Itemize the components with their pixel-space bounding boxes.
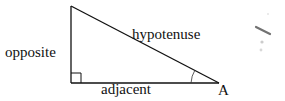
label-vertex-A: A: [218, 82, 229, 98]
label-hypotenuse: hypotenuse: [132, 26, 201, 42]
triangle-diagram: opposite hypotenuse adjacent A: [0, 0, 285, 101]
hypotenuse-side: [71, 6, 219, 83]
smudge-artifact: [256, 13, 270, 51]
angle-arc-A: [191, 70, 195, 83]
label-adjacent: adjacent: [101, 81, 152, 97]
label-opposite: opposite: [5, 44, 56, 60]
right-angle-marker: [71, 73, 81, 83]
